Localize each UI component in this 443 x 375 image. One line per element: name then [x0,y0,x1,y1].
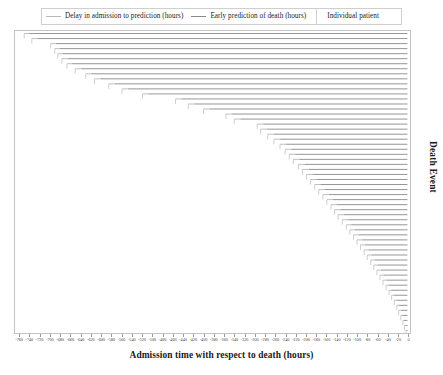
x-axis-title: Admission time with respect to death (ho… [0,350,443,360]
x-tick-label: -660 [67,337,75,343]
x-tick-label: -40 [385,337,391,343]
x-tick-label: -640 [77,337,85,343]
x-tick-label: -380 [210,337,218,343]
x-tick-label: -60 [375,337,381,343]
x-tick-label: -80 [365,337,371,343]
x-tick-label: -540 [128,337,136,343]
x-tick-label: -480 [159,337,167,343]
x-tick-label: -500 [148,337,156,343]
x-tick-label: -460 [169,337,177,343]
legend-label-delay: Delay in admission to prediction (hours) [65,12,183,21]
legend-line-delay-icon [46,16,61,17]
x-tick-label: -420 [189,337,197,343]
x-tick-label: -720 [36,337,44,343]
chart-legend: Delay in admission to prediction (hours)… [41,8,402,25]
legend-entry-delay: Delay in admission to prediction (hours) [42,9,187,24]
x-tick-label: -520 [138,337,146,343]
x-tick-label: -560 [118,337,126,343]
chart-figure: Delay in admission to prediction (hours)… [0,0,443,375]
legend-line-early-icon [191,16,206,17]
x-tick-label: -240 [282,337,290,343]
x-tick-label: -140 [333,337,341,343]
x-tick-label: -360 [220,337,228,343]
x-tick-label: -100 [353,337,361,343]
x-tick-label: -220 [292,337,300,343]
x-tick-label: -160 [323,337,331,343]
x-tick-label: -440 [179,337,187,343]
patient-timeline-series [15,31,410,333]
x-tick-label: -260 [271,337,279,343]
x-tick-label: -700 [46,337,54,343]
x-tick-label: -680 [56,337,64,343]
legend-label-early: Early prediction of death (hours) [210,12,306,21]
legend-entry-early: Early prediction of death (hours) [187,9,310,24]
legend-entry-individual-patient: Individual patient [322,9,383,24]
x-tick-label: -580 [107,337,115,343]
legend-divider [316,9,317,24]
x-tick-label: -180 [312,337,320,343]
legend-label-individual-patient: Individual patient [327,12,379,21]
x-tick-label: 0 [407,337,409,343]
x-tick-label: -280 [261,337,269,343]
x-tick-label: -120 [343,337,351,343]
x-tick-label: -340 [230,337,238,343]
x-tick-label: -620 [87,337,95,343]
x-tick-label: -320 [241,337,249,343]
x-tick-label: -760 [15,337,23,343]
x-tick-label: -400 [200,337,208,343]
x-tick-label: -300 [251,337,259,343]
x-tick-label: -200 [302,337,310,343]
x-tick-label: -20 [395,337,401,343]
y-axis-title: Death Event [425,0,441,334]
x-tick-label: -600 [97,337,105,343]
plot-area [14,30,411,334]
x-tick-label: -740 [26,337,34,343]
